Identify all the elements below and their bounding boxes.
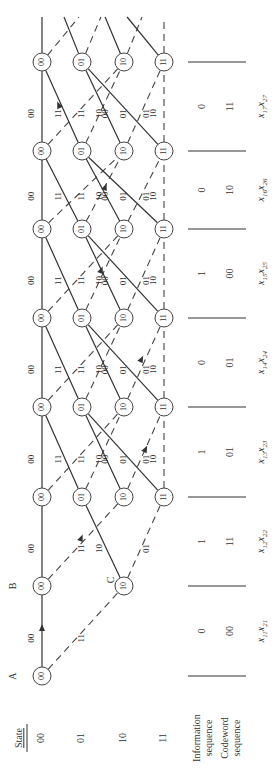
node-state-label: 00 [37,672,46,680]
branch-label: 11 [77,276,87,285]
branch-continuation [48,17,79,55]
state-node-11-t7: 11 [155,53,173,71]
symbol-5: x15x25 [255,262,268,286]
branch-label: 01 [118,276,128,285]
node-state-label: 11 [159,493,168,501]
codeword-1: 00 [224,626,235,636]
state-node-00-t5: 00 [33,220,51,238]
state-node-10-t2: 10 [115,488,133,506]
state-node-00-t3: 00 [33,398,51,416]
state-node-10-t6: 10 [115,142,133,160]
state-node-11-t6: 11 [155,142,173,160]
branch-00-to-10-t1 [48,504,118,580]
node-state-label: 01 [77,58,86,66]
branch-label: 11 [77,634,87,643]
node-state-label: 11 [159,314,168,322]
branch-00-to-10-t3 [48,325,118,401]
node-state-label: 00 [37,225,46,233]
state-node-01-t2: 01 [73,488,91,506]
branch-label: 11 [77,192,87,201]
information-sequence-label: Information [191,714,202,762]
codeword-sequence-label: Codeword [219,717,230,759]
branch-label: 00 [26,109,36,119]
node-state-label: 01 [77,403,86,411]
state-node-10-t7: 10 [115,53,133,71]
state-axis-label-01: 01 [75,733,86,743]
branch-label: 10 [94,109,104,119]
symbol-1: x11x21 [255,620,268,643]
branch-11-to-01-t4 [88,236,158,312]
branch-01-to-00-t4 [46,237,79,310]
state-node-10-t3: 10 [115,398,133,416]
state-node-00-t1: 00 [33,577,51,595]
info-bit-1: 0 [196,629,207,634]
branch-01-to-00-t5 [46,159,78,221]
state-node-10-t4: 10 [115,309,133,327]
info-bit-4: 0 [196,360,207,365]
branch-00-to-10-t5 [49,157,118,223]
node-state-label: 10 [119,147,128,155]
state-node-00-t7: 00 [33,53,51,71]
symbol-3: x13x23 [255,440,268,464]
branch-00-to-10-t0 [48,593,118,670]
node-state-label: 11 [159,403,168,411]
path-arrow-icon [141,444,150,453]
codeword-3: 01 [224,447,235,457]
state-axis-label-10: 10 [117,733,128,743]
state-node-10-t5: 10 [115,220,133,238]
codeword-6: 10 [224,185,235,195]
state-node-01-t4: 01 [73,309,91,327]
state-node-11-t2: 11 [155,488,173,506]
branch-label: 10 [148,454,158,464]
branch-label: 10 [148,109,158,119]
branch-label: 01 [118,455,128,464]
trellis-svg: 0011001110010011110010010110001111001001… [0,0,280,772]
sequence-table: InformationsequenceCodewordsequence000x1… [188,62,269,762]
branch-label: 01 [118,365,128,374]
branch-10-to-11-t6 [128,70,161,143]
branch-label: 00 [26,276,36,286]
node-state-label: 01 [77,147,86,155]
branch-label: 11 [53,276,63,285]
symbol-4: x14x24 [255,351,268,375]
branch-label: 01 [118,192,128,201]
branch-10-to-11-t5 [128,159,160,221]
branch-label: 11 [53,192,63,201]
state-axis: State00011011 [13,724,168,752]
branch-label: 01 [141,544,151,553]
branch-10-to-11-t4 [128,237,161,310]
node-state-label: 10 [119,314,128,322]
node-state-label: 01 [77,314,86,322]
codeword-5: 00 [224,269,235,279]
state-node-00-t4: 00 [33,309,51,327]
node-state-label: 10 [119,58,128,66]
path-arrow-icon [39,624,45,631]
state-node-11-t3: 11 [155,398,173,416]
branch-label: 00 [26,544,36,554]
info-bit-6: 0 [196,188,207,193]
branch-label: 10 [148,276,158,286]
state-node-01-t7: 01 [73,53,91,71]
branch-label: 10 [94,276,104,286]
node-marker-b: B [7,582,18,589]
branch-11-to-01-t5 [89,157,158,223]
node-state-label: 11 [159,147,168,155]
branch-label: 11 [77,109,87,118]
info-bit-7: 0 [196,104,207,109]
node-state-label: 00 [37,314,46,322]
branch-10-to-11-t3 [128,326,161,399]
node-state-label: 10 [119,403,128,411]
branch-label: 11 [77,455,87,464]
branch-label: 00 [26,454,36,464]
branch-01-to-00-t2 [46,415,79,489]
branch-label: 10 [94,365,104,375]
node-state-label: 00 [37,58,46,66]
path-arrow-icon [97,265,105,274]
codeword-sequence-label-2: sequence [231,719,242,756]
node-state-label: 10 [119,493,128,501]
node-state-label: 01 [77,225,86,233]
state-node-00-t6: 00 [33,142,51,160]
branch-label: 00 [26,191,36,201]
branch-00-to-10-t2 [48,414,118,491]
branch-11-to-01-t6 [88,69,158,145]
